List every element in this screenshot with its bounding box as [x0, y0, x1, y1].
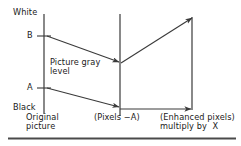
axis-tick-label-a: A — [27, 83, 33, 92]
mapping-arrow-mid-to-right — [121, 18, 192, 63]
mapping-arrow-a-to-mid — [47, 88, 119, 107]
figure-canvas: White B A Black Picture gray level Origi… — [0, 0, 241, 146]
axis-label-white: White — [13, 8, 37, 17]
caption-pixels-minus-a: (Pixels −A) — [94, 113, 140, 122]
annotation-picture-gray-level: Picture gray level — [50, 58, 100, 77]
caption-original-picture: Original picture — [26, 113, 59, 132]
axis-tick-label-b: B — [27, 31, 33, 40]
axis-label-black: Black — [13, 103, 36, 112]
caption-enhanced-pixels: (Enhanced pixels) multiply by X — [160, 113, 235, 132]
